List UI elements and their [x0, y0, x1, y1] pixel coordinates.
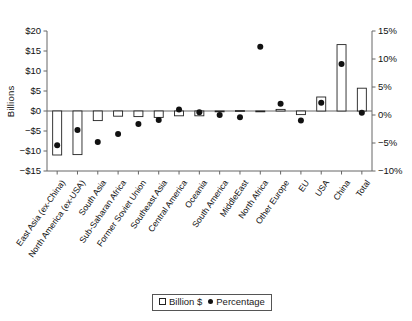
chart-container: Billions $20$15$10$5$0−$5−$10−$15 15%10%…	[0, 0, 412, 321]
legend-label-percentage: Percentage	[216, 297, 265, 307]
chart-legend: Billion $ Percentage	[152, 294, 272, 311]
legend-item-percentage: Percentage	[208, 297, 265, 307]
y-tick-label-right: 0%	[378, 110, 392, 120]
y-tick-label-right: 10%	[378, 54, 397, 64]
y-tick-label-right: −10%	[378, 166, 403, 176]
y-tick-label-right: −5%	[378, 138, 397, 148]
y-tick-label-right: 5%	[378, 82, 392, 92]
legend-label-billion: Billion $	[169, 297, 202, 307]
filled-circle-icon	[208, 299, 213, 304]
y-tick-label-right: 15%	[378, 26, 397, 36]
open-square-icon	[159, 298, 166, 305]
legend-item-billion: Billion $	[159, 297, 202, 307]
